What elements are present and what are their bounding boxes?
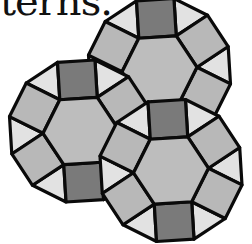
tiling-diagram <box>0 0 252 244</box>
dark-square-tile <box>137 0 177 38</box>
dark-square-tile <box>154 202 194 242</box>
bottom-right-unit <box>100 100 242 242</box>
dark-square-tile <box>64 162 104 202</box>
dark-square-tile <box>58 60 98 100</box>
dark-square-tile <box>148 100 188 140</box>
